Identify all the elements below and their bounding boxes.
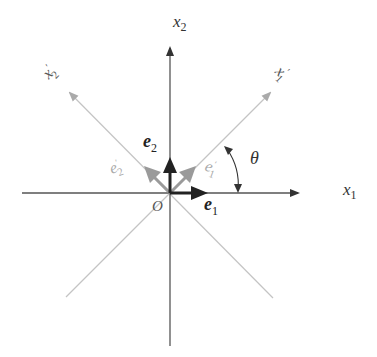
arc-arrowhead-top: [224, 146, 233, 155]
origin-label: O: [152, 198, 163, 215]
e1-label-sub: 1: [212, 204, 218, 218]
arc-arrowhead-bottom: [234, 184, 242, 193]
theta-label: θ: [250, 148, 259, 169]
e2-label-sub: 2: [151, 141, 157, 155]
x2-label-text: x: [173, 12, 181, 31]
x1-label-sub: 1: [351, 188, 357, 202]
x1-label-text: x: [343, 180, 351, 199]
rotation-diagram: x2 x1 x′2 x′1 e2 e1 e′2 e′1 θ O: [0, 0, 377, 357]
main-axes: [22, 48, 298, 346]
x2-axis-label: x2: [173, 12, 187, 35]
angle-theta-arc: [224, 146, 242, 193]
e1-label: e1: [204, 194, 218, 219]
e1-label-text: e: [204, 194, 212, 214]
x2-prime-axis: [70, 93, 273, 298]
diagram-svg: [0, 0, 377, 357]
x1-prime-axis: [66, 93, 270, 297]
e2-label-text: e: [143, 131, 151, 151]
x1-axis-label: x1: [343, 180, 357, 203]
e2-arrowhead: [163, 157, 177, 173]
e2-label: e2: [143, 131, 157, 156]
x2-label-sub: 2: [181, 20, 187, 34]
